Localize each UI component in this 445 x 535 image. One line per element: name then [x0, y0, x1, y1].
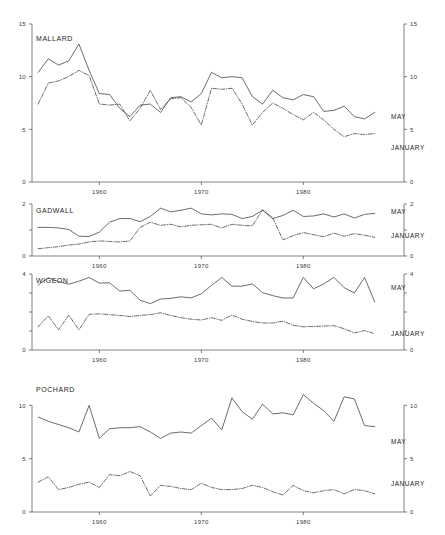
- svg-text:15: 15: [410, 21, 418, 27]
- series-line-may-pochard: [38, 395, 375, 439]
- series-label-may-mallard: MAY: [391, 113, 406, 120]
- svg-text:10: 10: [410, 74, 418, 80]
- series-line-january-wigeon: [38, 313, 375, 334]
- svg-text:15: 15: [19, 21, 27, 27]
- panel-pochard: 00551010196019701980 POCHARD MAY JANUARY: [0, 372, 445, 532]
- panel-wigeon: 0044196019701980 WIGEON MAY JANUARY: [0, 266, 445, 362]
- panel-gadwall-plot: 0022196019701980 GADWALL MAY JANUARY: [0, 196, 445, 268]
- svg-text:5: 5: [22, 127, 26, 133]
- series-line-may-wigeon: [38, 277, 375, 303]
- pochard-axes: 00551010196019701980: [19, 403, 418, 525]
- svg-text:4: 4: [22, 271, 26, 277]
- series-label-may-pochard: MAY: [391, 438, 406, 445]
- svg-text:10: 10: [19, 403, 27, 409]
- svg-text:0: 0: [22, 179, 26, 185]
- svg-text:10: 10: [410, 403, 418, 409]
- panel-mallard: 005510101515196019701980 MALLARD MAY JAN…: [0, 10, 445, 200]
- series-label-may-gadwall: MAY: [391, 208, 406, 215]
- svg-text:2: 2: [22, 201, 26, 207]
- duck-population-figure: 005510101515196019701980 MALLARD MAY JAN…: [0, 0, 445, 535]
- svg-text:1980: 1980: [296, 519, 311, 525]
- svg-text:5: 5: [410, 127, 414, 133]
- gadwall-axes: 0022196019701980: [22, 201, 414, 268]
- svg-text:2: 2: [410, 201, 414, 207]
- svg-text:0: 0: [22, 509, 26, 515]
- svg-text:1960: 1960: [92, 357, 107, 362]
- series-label-may-wigeon: MAY: [391, 284, 406, 291]
- svg-text:10: 10: [19, 74, 27, 80]
- svg-text:0: 0: [22, 347, 26, 353]
- svg-text:1970: 1970: [194, 189, 209, 195]
- svg-text:4: 4: [410, 271, 414, 277]
- svg-text:1960: 1960: [92, 189, 107, 195]
- series-line-january-pochard: [38, 471, 375, 496]
- panel-pochard-plot: 00551010196019701980 POCHARD MAY JANUARY: [0, 372, 445, 532]
- panel-wigeon-plot: 0044196019701980 WIGEON MAY JANUARY: [0, 266, 445, 362]
- wigeon-axes: 0044196019701980: [22, 271, 414, 362]
- svg-text:0: 0: [22, 253, 26, 259]
- mallard-axes: 005510101515196019701980: [19, 21, 418, 195]
- svg-text:0: 0: [410, 179, 414, 185]
- panel-title-pochard: POCHARD: [36, 386, 75, 393]
- panel-mallard-plot: 005510101515196019701980 MALLARD MAY JAN…: [0, 10, 445, 200]
- series-label-january-gadwall: JANUARY: [391, 232, 425, 239]
- svg-text:5: 5: [22, 456, 26, 462]
- svg-text:1970: 1970: [194, 519, 209, 525]
- series-label-january-pochard: JANUARY: [391, 480, 425, 487]
- panel-title-gadwall: GADWALL: [36, 207, 74, 214]
- series-line-january-gadwall: [38, 210, 375, 249]
- svg-text:0: 0: [410, 253, 414, 259]
- svg-text:1960: 1960: [92, 519, 107, 525]
- series-line-january-mallard: [38, 70, 375, 136]
- panel-title-mallard: MALLARD: [36, 35, 73, 42]
- panel-gadwall: 0022196019701980 GADWALL MAY JANUARY: [0, 196, 445, 268]
- series-label-january-wigeon: JANUARY: [391, 330, 425, 337]
- svg-text:1980: 1980: [296, 357, 311, 362]
- svg-text:5: 5: [410, 456, 414, 462]
- svg-text:1980: 1980: [296, 189, 311, 195]
- series-line-may-gadwall: [38, 208, 375, 236]
- svg-text:1970: 1970: [194, 357, 209, 362]
- svg-text:0: 0: [410, 509, 414, 515]
- series-label-january-mallard: JANUARY: [391, 144, 425, 151]
- svg-text:0: 0: [410, 347, 414, 353]
